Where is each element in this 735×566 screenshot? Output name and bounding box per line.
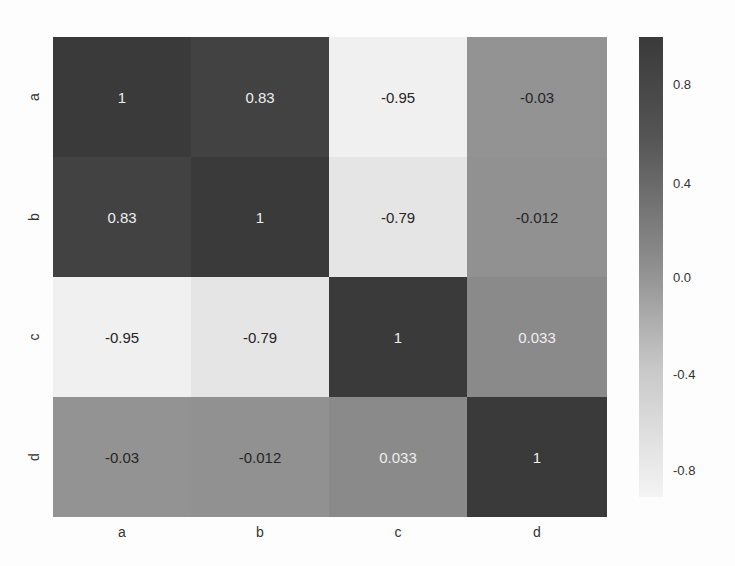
figure: 1 0.83 -0.95 -0.03 0.83 1 -0.79 -0.012 -…: [0, 0, 735, 566]
colorbar-tick-neg0.8: -0.8: [673, 463, 695, 478]
cell-b-a: 0.83: [53, 157, 191, 277]
colorbar: [639, 37, 663, 497]
colorbar-tick-0.4: 0.4: [673, 176, 691, 191]
cell-d-b: -0.012: [191, 397, 329, 517]
y-tick-label-b: b: [24, 207, 44, 227]
cell-a-d: -0.03: [467, 37, 607, 157]
cell-a-b: 0.83: [191, 37, 329, 157]
x-tick-label-d: d: [517, 524, 557, 540]
x-tick-label-a: a: [102, 524, 142, 540]
y-tick-label-d: d: [24, 447, 44, 467]
x-tick-label-b: b: [240, 524, 280, 540]
cell-b-d: -0.012: [467, 157, 607, 277]
cell-c-d: 0.033: [467, 277, 607, 397]
cell-c-a: -0.95: [53, 277, 191, 397]
colorbar-tick-neg0.4: -0.4: [673, 367, 695, 382]
cell-b-c: -0.79: [329, 157, 467, 277]
y-tick-label-a: a: [24, 87, 44, 107]
x-tick-label-c: c: [378, 524, 418, 540]
cell-b-b: 1: [191, 157, 329, 277]
colorbar-tick-0.0: 0.0: [673, 270, 691, 285]
heatmap-grid: 1 0.83 -0.95 -0.03 0.83 1 -0.79 -0.012 -…: [53, 37, 607, 517]
cell-c-c: 1: [329, 277, 467, 397]
colorbar-tick-0.8: 0.8: [673, 77, 691, 92]
cell-d-d: 1: [467, 397, 607, 517]
cell-a-c: -0.95: [329, 37, 467, 157]
y-tick-label-c: c: [24, 327, 44, 347]
cell-d-a: -0.03: [53, 397, 191, 517]
cell-d-c: 0.033: [329, 397, 467, 517]
cell-a-a: 1: [53, 37, 191, 157]
cell-c-b: -0.79: [191, 277, 329, 397]
